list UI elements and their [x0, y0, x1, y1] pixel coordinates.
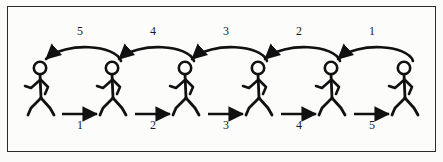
return-arrow-label: 2: [289, 25, 309, 37]
forward-arrow-label: 1: [70, 119, 90, 131]
walker-figure: [389, 62, 418, 115]
walker-figure: [170, 62, 199, 115]
forward-arrow-label: 4: [289, 119, 309, 131]
return-arrow: [192, 47, 267, 61]
forward-arrow-label: 3: [216, 119, 236, 131]
return-arrow-label: 5: [70, 25, 90, 37]
walkers-layer: [25, 62, 418, 115]
figure-frame: 5 4 3 2 1 1 2 3 4 5: [0, 0, 443, 162]
return-arrows-layer: [46, 47, 413, 61]
walker-figure: [243, 62, 272, 115]
return-arrow-label: 1: [362, 25, 382, 37]
return-arrow-label: 4: [143, 25, 163, 37]
return-arrow: [265, 47, 340, 61]
walker-figure: [97, 62, 126, 115]
return-arrow: [119, 47, 194, 61]
return-arrow: [46, 47, 121, 61]
walker-figure: [25, 62, 54, 115]
return-arrow: [338, 47, 413, 61]
walker-figure: [316, 62, 345, 115]
forward-arrow-label: 2: [143, 119, 163, 131]
forward-arrow-label: 5: [362, 119, 382, 131]
return-arrow-label: 3: [216, 25, 236, 37]
